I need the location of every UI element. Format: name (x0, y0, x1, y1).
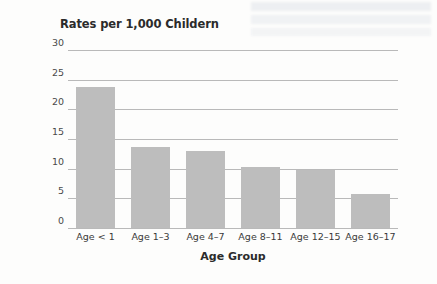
bar (76, 87, 115, 228)
bar-slot (131, 50, 170, 228)
bar (131, 147, 170, 228)
bars-series (68, 50, 398, 228)
y-tick-label-25: 25 (42, 67, 64, 80)
bar-slot (351, 50, 390, 228)
bar (296, 170, 335, 228)
y-tick-label-15: 15 (42, 126, 64, 139)
chart-title: Rates per 1,000 Childern (60, 17, 219, 31)
bar (241, 167, 280, 228)
y-tick-label-5: 5 (42, 185, 64, 198)
y-tick-label-30: 30 (42, 37, 64, 50)
y-tick-label-0: 0 (42, 215, 64, 228)
x-axis-tick-labels: Age < 1Age 1–3Age 4–7Age 8–11Age 12–15Ag… (68, 231, 398, 245)
bar (186, 151, 225, 228)
x-tick-label: Age 12–15 (288, 231, 343, 242)
gridline-0 (68, 228, 398, 229)
x-tick-label: Age 8–11 (233, 231, 288, 242)
x-axis-title: Age Group (68, 250, 398, 263)
bar-chart-figure: Rates per 1,000 Childern 051015202530 Ag… (0, 0, 437, 284)
y-tick-label-10: 10 (42, 156, 64, 169)
bar-slot (76, 50, 115, 228)
y-tick-label-20: 20 (42, 96, 64, 109)
bar-slot (186, 50, 225, 228)
x-tick-label: Age 4–7 (178, 231, 233, 242)
x-tick-label: Age 16–17 (343, 231, 398, 242)
y-axis-tick-labels: 051015202530 (40, 50, 64, 228)
plot-area (68, 50, 398, 228)
x-tick-label: Age 1–3 (123, 231, 178, 242)
bar-slot (241, 50, 280, 228)
bar (351, 194, 390, 228)
x-tick-label: Age < 1 (68, 231, 123, 242)
bar-slot (296, 50, 335, 228)
